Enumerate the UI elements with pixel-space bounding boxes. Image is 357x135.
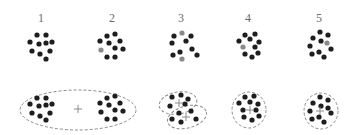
data-point bbox=[185, 96, 190, 101]
data-point bbox=[307, 108, 312, 113]
data-point bbox=[177, 49, 182, 54]
data-point bbox=[43, 32, 48, 37]
data-point bbox=[316, 114, 321, 119]
data-point bbox=[307, 43, 312, 48]
data-point bbox=[34, 95, 39, 100]
data-point bbox=[27, 101, 32, 106]
data-point bbox=[256, 39, 261, 44]
data-point bbox=[240, 107, 245, 112]
data-point bbox=[112, 45, 117, 50]
data-point bbox=[242, 32, 247, 37]
data-point bbox=[247, 99, 252, 104]
centroid-plus-icon bbox=[182, 113, 190, 121]
data-point bbox=[189, 46, 194, 51]
data-point bbox=[112, 116, 117, 121]
data-point bbox=[317, 94, 322, 99]
data-point bbox=[29, 110, 34, 115]
data-point bbox=[236, 100, 241, 105]
data-point bbox=[43, 117, 48, 122]
data-point bbox=[321, 119, 326, 124]
data-point bbox=[120, 108, 125, 113]
data-point bbox=[310, 100, 315, 105]
highlighted-point bbox=[324, 40, 329, 45]
panel-label-3: 3 bbox=[178, 11, 184, 26]
data-point bbox=[242, 51, 247, 56]
data-point bbox=[36, 103, 41, 108]
data-point bbox=[182, 101, 187, 106]
data-point bbox=[104, 54, 109, 59]
data-point bbox=[49, 39, 54, 44]
data-point bbox=[316, 49, 321, 54]
data-point bbox=[43, 102, 48, 107]
data-point bbox=[49, 101, 54, 106]
data-point bbox=[112, 107, 117, 112]
data-point bbox=[37, 113, 42, 118]
centroid-plus-icon bbox=[74, 105, 82, 113]
data-point bbox=[249, 54, 254, 59]
panel-label-2: 2 bbox=[109, 11, 115, 26]
highlighted-point bbox=[240, 44, 245, 49]
data-point bbox=[252, 44, 257, 49]
data-point bbox=[170, 52, 175, 57]
data-point bbox=[309, 116, 314, 121]
highlighted-point bbox=[179, 56, 184, 61]
data-point bbox=[318, 38, 323, 43]
data-point bbox=[117, 100, 122, 105]
data-point bbox=[193, 116, 198, 121]
data-point bbox=[36, 41, 41, 46]
centroid-plus-icon bbox=[246, 106, 254, 114]
data-point bbox=[247, 36, 252, 41]
data-point bbox=[37, 51, 42, 56]
data-point bbox=[169, 94, 174, 99]
panel-label-1: 1 bbox=[38, 11, 44, 26]
data-point bbox=[43, 56, 48, 61]
highlighted-point bbox=[179, 30, 184, 35]
data-point bbox=[253, 107, 258, 112]
data-point bbox=[117, 38, 122, 43]
data-point bbox=[43, 40, 48, 45]
data-point bbox=[34, 32, 39, 37]
data-point bbox=[251, 93, 256, 98]
data-point bbox=[236, 38, 241, 43]
data-point bbox=[169, 40, 174, 45]
data-point bbox=[328, 46, 333, 51]
data-point bbox=[321, 54, 326, 59]
data-point bbox=[252, 31, 257, 36]
data-point bbox=[120, 46, 125, 51]
data-point bbox=[328, 110, 333, 115]
data-point bbox=[242, 94, 247, 99]
data-point bbox=[255, 50, 260, 55]
data-point bbox=[178, 119, 183, 124]
data-point bbox=[167, 103, 172, 108]
data-point bbox=[97, 100, 102, 105]
data-point bbox=[98, 109, 103, 114]
data-point bbox=[29, 48, 34, 53]
data-point bbox=[112, 54, 117, 59]
panel-label-4: 4 bbox=[245, 11, 251, 26]
panel-label-5: 5 bbox=[316, 11, 322, 26]
data-point bbox=[178, 92, 183, 97]
data-point bbox=[106, 102, 111, 107]
data-point bbox=[188, 33, 193, 38]
data-point bbox=[241, 114, 246, 119]
data-point bbox=[255, 101, 260, 106]
data-point bbox=[106, 40, 111, 45]
data-point bbox=[188, 108, 193, 113]
data-point bbox=[112, 31, 117, 36]
data-point bbox=[256, 113, 261, 118]
data-point bbox=[27, 39, 32, 44]
data-point bbox=[104, 116, 109, 121]
data-point bbox=[104, 33, 109, 38]
data-point bbox=[43, 95, 48, 100]
data-point bbox=[176, 110, 181, 115]
data-point bbox=[325, 97, 330, 102]
data-point bbox=[47, 110, 52, 115]
centroid-plus-icon bbox=[175, 99, 183, 107]
data-point bbox=[318, 103, 323, 108]
centroid-plus-icon bbox=[316, 107, 324, 115]
data-point bbox=[310, 35, 315, 40]
data-point bbox=[325, 105, 330, 110]
data-point bbox=[104, 95, 109, 100]
data-point bbox=[97, 38, 102, 43]
data-point bbox=[171, 33, 176, 38]
